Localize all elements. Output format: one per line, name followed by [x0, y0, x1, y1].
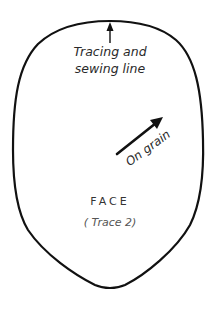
pattern-piece-title: FACE — [60, 195, 160, 208]
trace-count-note: ( Trace 2) — [60, 216, 160, 229]
outline-label-line2: sewing line — [60, 61, 160, 76]
arrow-up-icon — [107, 22, 114, 43]
outline-label-line1: Tracing and — [60, 44, 160, 59]
